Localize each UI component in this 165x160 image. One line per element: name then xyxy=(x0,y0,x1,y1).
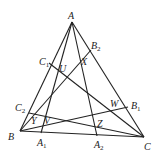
label-u: U xyxy=(59,63,67,74)
label-c: C xyxy=(144,141,151,152)
label-a: A xyxy=(67,10,75,21)
label-a2: A2 xyxy=(93,139,104,152)
label-a1: A1 xyxy=(36,137,47,150)
label-w: W xyxy=(110,98,120,109)
label-x: X xyxy=(80,56,88,67)
triangle-abc xyxy=(20,22,144,137)
cevians xyxy=(20,22,144,137)
side-ca xyxy=(72,22,144,137)
label-b1: B1 xyxy=(131,100,141,113)
label-c2: C2 xyxy=(15,102,26,115)
label-b: B xyxy=(8,131,14,142)
label-c1: C1 xyxy=(39,56,50,69)
label-z: Z xyxy=(97,118,103,129)
label-y: Y xyxy=(31,115,38,126)
labels: A B C A1 A2 B1 B2 C1 C2 U X W Z Y V xyxy=(8,10,151,152)
label-b2: B2 xyxy=(91,40,101,53)
geometry-diagram: A B C A1 A2 B1 B2 C1 C2 U X W Z Y V xyxy=(0,0,165,160)
